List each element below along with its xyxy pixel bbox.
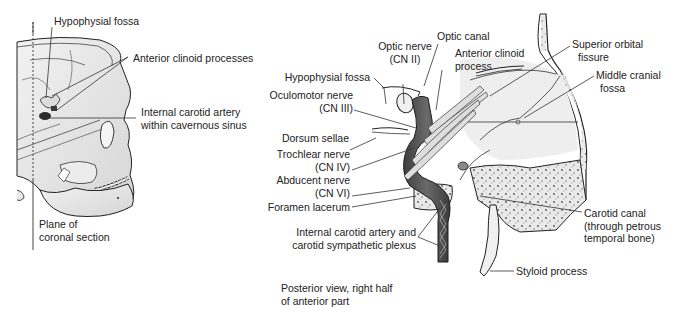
label-plane-of-coronal-section: Plane of coronal section bbox=[39, 218, 110, 243]
label-left-internal-carotid: Internal carotid artery within cavernous… bbox=[141, 106, 247, 131]
label-middle-cranial-fossa: Middle cranial fossa bbox=[596, 69, 661, 94]
anatomy-figure: Hypophysial fossa Anterior clinoid proce… bbox=[0, 0, 676, 315]
label-left-anterior-clinoid-processes: Anterior clinoid processes bbox=[133, 52, 253, 65]
label-hypophysial-fossa: Hypophysial fossa bbox=[270, 71, 370, 84]
label-foramen-lacerum: Foramen lacerum bbox=[260, 201, 350, 214]
label-anterior-clinoid-process: Anterior clinoid process bbox=[455, 47, 524, 72]
label-internal-carotid-plexus: Internal carotid artery and carotid symp… bbox=[280, 226, 416, 251]
label-dorsum-sellae: Dorsum sellae bbox=[270, 132, 349, 145]
figure-caption: Posterior view, right half of anterior p… bbox=[281, 282, 392, 307]
label-abducent-nerve: Abducent nerve (CN VI) bbox=[260, 174, 350, 199]
label-oculomotor-nerve: Oculomotor nerve (CN III) bbox=[260, 89, 353, 114]
left-skull-drawing bbox=[17, 22, 134, 250]
label-styloid-process: Styloid process bbox=[516, 265, 587, 278]
label-carotid-canal: Carotid canal (through petrous temporal … bbox=[584, 207, 661, 245]
label-optic-nerve: Optic nerve (CN II) bbox=[363, 40, 447, 65]
label-optic-canal: Optic canal bbox=[437, 30, 490, 43]
label-trochlear-nerve: Trochlear nerve (CN IV) bbox=[260, 148, 350, 173]
label-left-hypophysial-fossa: Hypophysial fossa bbox=[54, 15, 139, 28]
label-superior-orbital-fissure: Superior orbital fissure bbox=[572, 38, 643, 63]
